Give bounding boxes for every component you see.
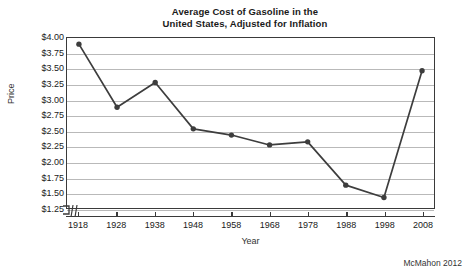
y-tick-label: $1.50 xyxy=(22,189,64,198)
data-point-marker xyxy=(343,182,348,187)
y-tick-label: $2.50 xyxy=(22,127,64,136)
x-tick-mark xyxy=(385,212,386,217)
y-tick-label: $3.25 xyxy=(22,80,64,89)
data-point-marker xyxy=(381,195,386,200)
gasoline-price-line-chart: Average Cost of Gasoline in the United S… xyxy=(0,0,470,274)
x-tick-mark xyxy=(270,212,271,217)
x-tick-mark xyxy=(231,212,232,217)
x-tick-mark xyxy=(423,212,424,217)
data-point-marker xyxy=(76,42,81,47)
axis-break-icon xyxy=(60,203,86,219)
plot-inner xyxy=(67,38,434,208)
y-tick-label: $4.00 xyxy=(22,33,64,42)
x-axis-title: Year xyxy=(66,236,435,246)
x-axis-line xyxy=(66,216,435,217)
y-axis-tick-labels: $1.25$1.50$1.75$2.00$2.25$2.50$2.75$3.00… xyxy=(22,33,64,209)
chart-title: Average Cost of Gasoline in the United S… xyxy=(100,6,390,30)
y-tick-label: $3.50 xyxy=(22,64,64,73)
y-tick-label: $1.25 xyxy=(22,205,64,214)
data-point-marker xyxy=(419,68,424,73)
x-axis-tick-labels: 1918192819381948195819681978198819982008 xyxy=(0,220,470,234)
data-point-marker xyxy=(153,80,158,85)
y-tick-label: $1.75 xyxy=(22,174,64,183)
gridline xyxy=(67,210,434,211)
y-tick-label: $2.00 xyxy=(22,158,64,167)
credit-line: McMahon 2012 xyxy=(403,258,462,268)
x-tick-mark xyxy=(346,212,347,217)
x-tick-mark xyxy=(308,212,309,217)
chart-title-line-2: United States, Adjusted for Inflation xyxy=(100,18,390,30)
data-point-marker xyxy=(229,132,234,137)
data-point-marker xyxy=(191,126,196,131)
x-tick-mark xyxy=(155,212,156,217)
x-tick-mark xyxy=(193,212,194,217)
data-point-marker xyxy=(305,139,310,144)
y-tick-label: $2.25 xyxy=(22,142,64,151)
series-polyline xyxy=(79,44,422,197)
x-tick-mark xyxy=(116,212,117,217)
data-point-marker xyxy=(114,105,119,110)
y-tick-label: $3.75 xyxy=(22,49,64,58)
data-series-line xyxy=(67,38,434,208)
y-axis-title: Price xyxy=(6,44,16,104)
plot-area xyxy=(66,37,435,209)
y-tick-label: $2.75 xyxy=(22,111,64,120)
y-tick-label: $3.00 xyxy=(22,96,64,105)
x-tick-label: 2008 xyxy=(400,220,446,231)
chart-title-line-1: Average Cost of Gasoline in the xyxy=(100,6,390,18)
data-point-marker xyxy=(267,142,272,147)
